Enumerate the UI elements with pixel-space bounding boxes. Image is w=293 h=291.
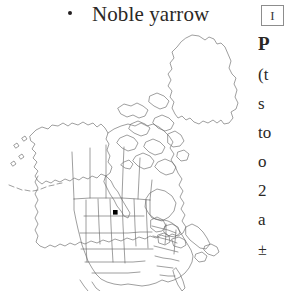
body-text-line: a: [258, 210, 266, 229]
eastern-canada-coast: [186, 224, 219, 262]
alaska-outline: [30, 122, 112, 184]
body-text-column: P (t s to o 2 a ±: [258, 34, 293, 291]
distribution-markers: [113, 210, 118, 215]
map-index-badge: I: [261, 5, 284, 26]
aleutian-islands: [9, 183, 62, 191]
distribution-map: [0, 30, 243, 291]
body-text-line: ±: [258, 240, 267, 259]
north-america-map-svg: [0, 30, 243, 291]
arctic-islands: [117, 93, 189, 175]
species-header-row: Noble yarrow I: [0, 0, 293, 32]
body-text-line: (t: [258, 65, 268, 84]
map-index-badge-label: I: [262, 6, 283, 25]
greenland-outline: [168, 35, 238, 124]
page-root: Noble yarrow I: [0, 0, 293, 291]
distribution-point: [113, 210, 118, 215]
usa-state-borders-horizontal: [81, 249, 153, 273]
body-text-line: s: [258, 94, 265, 113]
body-text-line: o: [258, 152, 267, 171]
baja-california: [80, 280, 100, 291]
usa-state-borders-vertical: [80, 198, 152, 263]
canada-provincial-borders: [72, 145, 152, 200]
hudson-bay: [145, 189, 176, 221]
bullet-icon: [68, 11, 72, 15]
body-text-line: to: [258, 123, 271, 142]
canada-us-border: [74, 198, 150, 200]
bering-islands: [11, 136, 27, 166]
body-text-line: 2: [258, 181, 267, 200]
body-text-line: P: [258, 34, 270, 53]
species-common-name: Noble yarrow: [92, 0, 209, 29]
